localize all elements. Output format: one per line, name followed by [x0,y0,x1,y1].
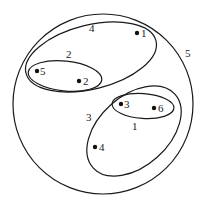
cluster-5-label: 5 [185,47,191,59]
point-4-dot [93,145,97,149]
point-3-label: 3 [124,98,130,110]
point-6-dot [152,106,156,110]
cluster-2-label: 2 [66,48,72,60]
point-5-dot [35,69,39,73]
point-6-label: 6 [158,102,164,114]
point-1-label: 1 [141,27,147,39]
cluster-5-circle [13,14,193,194]
point-5-label: 5 [40,65,46,77]
nested-cluster-diagram: 5 4 2 3 1 1 5 2 3 6 4 [0,0,204,197]
point-1-dot [135,31,139,35]
point-2-dot [77,79,81,83]
cluster-3-label: 3 [86,111,92,123]
point-4-label: 4 [99,141,105,153]
cluster-1-label: 1 [132,120,138,132]
cluster-2-ellipse [27,57,104,95]
point-3-dot [119,102,123,106]
point-2-label: 2 [83,75,89,87]
cluster-4-label: 4 [89,22,95,34]
